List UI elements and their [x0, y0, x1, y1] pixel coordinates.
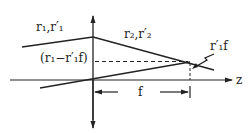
slope-offset-label: r′₁f — [210, 39, 229, 53]
incoming-ray — [22, 37, 93, 47]
ray-out-label: r₂,r′₂ — [124, 27, 152, 41]
focal-label: f — [138, 85, 144, 99]
axis-label-z: z — [236, 73, 242, 87]
central-ray — [40, 62, 190, 88]
leader-arrow — [195, 54, 214, 67]
intercept-label: (r₁−r′₁f) — [40, 51, 88, 65]
ray-in-label: r₁,r′₁ — [36, 20, 64, 34]
lens-ray-diagram: z f r₁,r′₁ r₂,r′₂ (r₁−r′₁f) r′₁f — [0, 0, 249, 134]
